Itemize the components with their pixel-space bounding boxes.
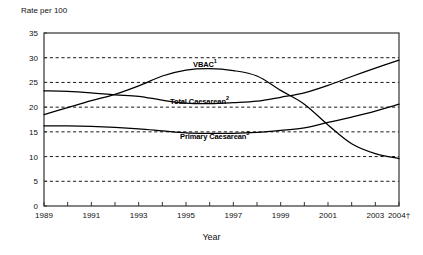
x-tick-label: 2004†	[388, 211, 410, 220]
x-tick-label: 1995	[177, 211, 195, 220]
series-label-text: Total Caesarean	[170, 97, 226, 106]
series-label-text: Primary Caesarean	[180, 132, 246, 141]
x-axis-tick-labels: 198919911993199519971999200120032004†	[0, 0, 423, 255]
x-tick-label: 1989	[35, 211, 53, 220]
series-label-vbac: VBAC1	[193, 58, 217, 69]
series-label-primary-caesarean: Primary Caesarean3	[180, 130, 249, 141]
series-label-footnote-marker: 3	[246, 130, 249, 136]
series-label-footnote-marker: 1	[214, 58, 217, 64]
series-label-text: VBAC	[193, 60, 214, 69]
chart-figure: Rate per 100 05101520253035 198919911993…	[0, 0, 423, 255]
x-tick-label: 1999	[272, 211, 290, 220]
x-tick-label: 1993	[130, 211, 148, 220]
x-tick-label: 2003	[366, 211, 384, 220]
series-label-footnote-marker: 2	[226, 95, 229, 101]
series-label-total-caesarean: Total Caesarean2	[170, 95, 229, 106]
x-axis-title: Year	[0, 232, 423, 242]
x-tick-label: 1991	[82, 211, 100, 220]
x-tick-label: 1997	[224, 211, 242, 220]
x-tick-label: 2001	[319, 211, 337, 220]
